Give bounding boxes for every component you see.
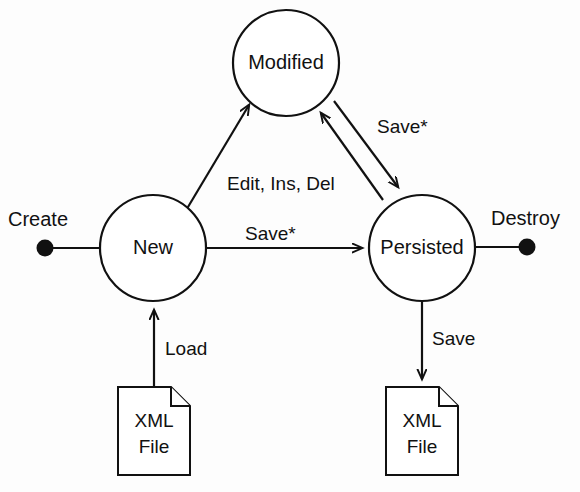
transition-new-to-modified: Edit, Ins, Del <box>185 105 335 212</box>
terminal-destroy: Destroy <box>475 207 560 255</box>
state-node-persisted[interactable]: Persisted <box>369 195 475 301</box>
transition-modified-to-persisted: Save* <box>334 101 428 187</box>
xml-file-source-line1: XML <box>134 410 173 431</box>
transition-new-to-persisted: Save* <box>206 223 362 248</box>
transition-persisted-to-xmlfile: Save <box>422 301 475 379</box>
save-star-label-upper: Save* <box>377 116 428 137</box>
xml-file-target-line1: XML <box>402 410 441 431</box>
persisted-label: Persisted <box>380 236 463 258</box>
transition-xmlfile-to-new: Load <box>154 310 207 387</box>
xml-file-target-fold-icon <box>439 387 458 406</box>
save-label: Save <box>432 328 475 349</box>
artifact-xml-file-target[interactable]: XML File <box>386 387 458 475</box>
create-initial-dot <box>37 240 54 257</box>
state-node-new[interactable]: New <box>100 195 206 301</box>
create-label: Create <box>8 208 68 230</box>
terminal-create: Create <box>8 208 100 256</box>
modified-label: Modified <box>248 51 324 73</box>
artifact-xml-file-source[interactable]: XML File <box>118 387 190 475</box>
state-diagram-svg: Create Destroy Edit, Ins, Del Save* Save… <box>0 0 580 492</box>
load-label: Load <box>165 338 207 359</box>
xml-file-source-line2: File <box>139 436 170 457</box>
xml-file-target-line2: File <box>407 436 438 457</box>
save-star-label-lower: Save* <box>245 223 296 244</box>
state-node-modified[interactable]: Modified <box>233 10 339 116</box>
state-diagram-canvas: Create Destroy Edit, Ins, Del Save* Save… <box>0 0 580 492</box>
destroy-final-dot <box>519 239 536 256</box>
new-label: New <box>133 236 174 258</box>
xml-file-source-fold-icon <box>171 387 190 406</box>
destroy-label: Destroy <box>491 207 560 229</box>
new-to-modified-arrow <box>185 105 249 212</box>
edit-ins-del-label: Edit, Ins, Del <box>227 173 335 194</box>
